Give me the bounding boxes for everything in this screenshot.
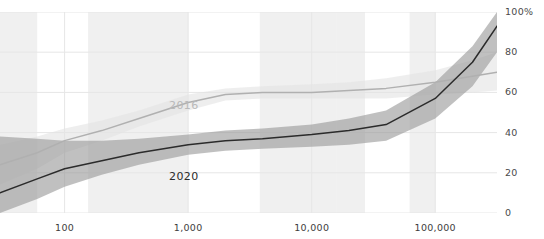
series-label-2016: 2016 xyxy=(169,99,199,112)
density-band xyxy=(260,12,337,213)
density-band xyxy=(337,12,365,213)
x-tick-label: 10,000 xyxy=(294,222,329,233)
chart-svg xyxy=(0,12,497,213)
y-tick-label: 100% xyxy=(505,6,533,17)
y-tick-label: 60 xyxy=(505,86,518,97)
cropped-header-strip: · · · xyxy=(0,0,544,9)
cropped-header-text: · · · xyxy=(2,0,17,4)
y-tick-label: 0 xyxy=(505,207,511,218)
x-tick-label: 1,000 xyxy=(174,222,203,233)
series-label-2020: 2020 xyxy=(169,170,199,183)
y-tick-label: 40 xyxy=(505,127,518,138)
x-tick-label: 100,000 xyxy=(415,222,456,233)
y-tick-label: 20 xyxy=(505,167,518,178)
x-tick-label: 100 xyxy=(55,222,74,233)
plot-area xyxy=(0,12,497,213)
y-tick-label: 80 xyxy=(505,46,518,57)
chart-screenshot: · · · 100% 80 60 40 20 0 100 1,000 10,00… xyxy=(0,0,544,239)
